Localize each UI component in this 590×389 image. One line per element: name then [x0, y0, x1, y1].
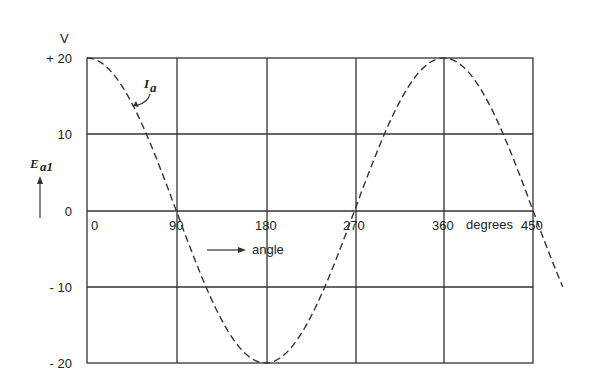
- y-axis-name: E a1: [29, 156, 53, 218]
- angle-label: angle: [252, 242, 284, 257]
- arrow-right-icon: [238, 247, 246, 253]
- x-tick: 180: [255, 218, 277, 233]
- curve-label-sub: a: [150, 80, 157, 95]
- curve-label-main: I: [143, 76, 150, 91]
- angle-arrow: angle: [207, 242, 284, 257]
- y-axis-name-sub: a1: [40, 159, 53, 174]
- y-tick: - 10: [50, 280, 72, 295]
- y-unit-label: V: [60, 31, 69, 46]
- y-axis-name-main: E: [29, 156, 39, 171]
- x-tick: 270: [343, 218, 365, 233]
- x-ticks: 0 90 180 270 360 degrees 450: [91, 217, 543, 233]
- y-ticks: + 20 10 0 - 10 - 20: [46, 51, 72, 371]
- y-tick: + 20: [46, 51, 72, 66]
- degrees-label: degrees: [466, 217, 513, 232]
- y-tick: 0: [65, 204, 72, 219]
- x-tick: 90: [169, 218, 183, 233]
- y-tick: - 20: [50, 356, 72, 371]
- curve-annotation: I a: [133, 76, 157, 107]
- arrow-up-icon: [37, 176, 43, 184]
- x-tick: 0: [91, 218, 98, 233]
- x-tick: 450: [521, 218, 543, 233]
- x-tick: 360: [432, 218, 454, 233]
- y-tick: 10: [58, 127, 72, 142]
- chart-canvas: V + 20 10 0 - 10 - 20 0 90 180 270 360 d…: [0, 0, 590, 389]
- arrow-icon: [133, 101, 139, 107]
